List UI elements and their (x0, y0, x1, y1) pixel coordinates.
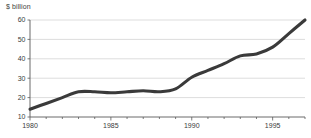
chart-container: $ billion 102030405060 1980198519901995 (0, 0, 311, 138)
gridlines-group (30, 20, 305, 98)
x-tick-label: 1980 (22, 122, 38, 129)
series-group (30, 20, 305, 109)
x-tick-label: 1985 (103, 122, 119, 129)
y-tick-label: 30 (18, 75, 26, 82)
y-axis-group: 102030405060 (18, 16, 30, 120)
x-tick-label: 1990 (184, 122, 200, 129)
y-tick-label: 60 (18, 16, 26, 23)
y-tick-label: 20 (18, 94, 26, 101)
y-tick-label: 40 (18, 55, 26, 62)
line-chart-plot: 102030405060 1980198519901995 (0, 0, 311, 138)
data-series-line (30, 20, 305, 109)
y-tick-label: 10 (18, 113, 26, 120)
x-axis-group: 1980198519901995 (22, 117, 305, 129)
x-tick-label: 1995 (265, 122, 281, 129)
y-tick-label: 50 (18, 36, 26, 43)
